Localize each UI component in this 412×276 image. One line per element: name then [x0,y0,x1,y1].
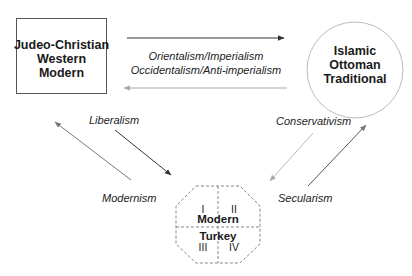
quadrant-iv: IV [229,241,239,253]
west-line-2: Western [37,52,86,66]
west-node: Judeo-Christian Western Modern [14,19,109,94]
west-line-3: Modern [39,66,84,80]
arrow-conservativism [270,133,313,181]
quadrant-iii: III [199,241,208,253]
label-conservativism: Conservativism [276,115,351,127]
east-line-1: Islamic [334,44,376,58]
arrow-liberalism [115,130,171,175]
label-liberalism: Liberalism [89,114,139,126]
arrow-modernism [55,122,131,180]
label-occidentalism: Occidentalism/Anti-imperialism [131,64,281,76]
label-modernism: Modernism [102,192,156,204]
east-line-2: Ottoman [329,58,380,72]
turkey-node: I II Modern Turkey III IV [176,186,260,263]
label-secularism: Secularism [278,192,332,204]
arrow-secularism [308,125,366,186]
turkey-title-top: Modern [197,213,239,225]
east-node: Islamic Ottoman Traditional [307,22,403,118]
diagram-canvas: Judeo-Christian Western Modern Islamic O… [0,0,412,276]
west-line-1: Judeo-Christian [14,38,109,52]
east-line-3: Traditional [323,72,386,86]
label-orientalism: Orientalism/Imperialism [149,50,264,62]
